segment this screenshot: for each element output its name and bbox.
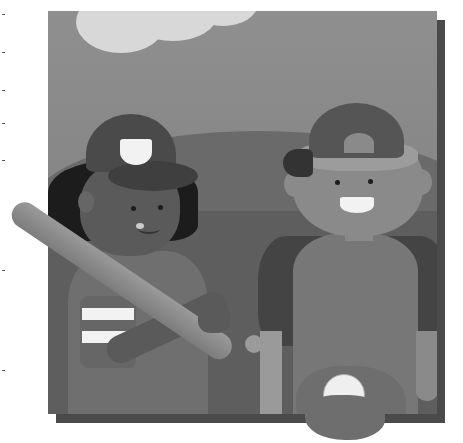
boy-arm-right	[416, 331, 437, 401]
girl-eye-right	[158, 205, 163, 210]
boy-cap-strap	[344, 133, 374, 153]
baseball-glove-lower	[305, 395, 385, 440]
margin-mark	[2, 52, 5, 53]
boy-eye-left	[335, 180, 340, 185]
boy-ear-right	[410, 169, 432, 195]
bat-knob	[245, 335, 263, 353]
illustration	[48, 11, 437, 414]
boy-cap-brim	[283, 149, 313, 177]
girl-cap-logo	[120, 139, 152, 165]
margin-mark	[2, 370, 5, 371]
boy-smile	[340, 197, 374, 213]
girl-tongue	[136, 223, 144, 229]
girl-cap-brim	[108, 161, 198, 191]
girl-hand	[198, 305, 230, 333]
sleeve-stripe	[82, 308, 134, 320]
margin-mark	[2, 14, 5, 15]
margin-mark	[2, 160, 5, 161]
girl-ear	[78, 191, 94, 213]
margin-mark	[2, 270, 5, 271]
boy-eye-right	[368, 179, 373, 184]
girl-eye-left	[131, 206, 136, 211]
boy-arm-left	[260, 331, 282, 414]
margin-mark	[2, 90, 5, 91]
margin-mark	[2, 123, 5, 124]
